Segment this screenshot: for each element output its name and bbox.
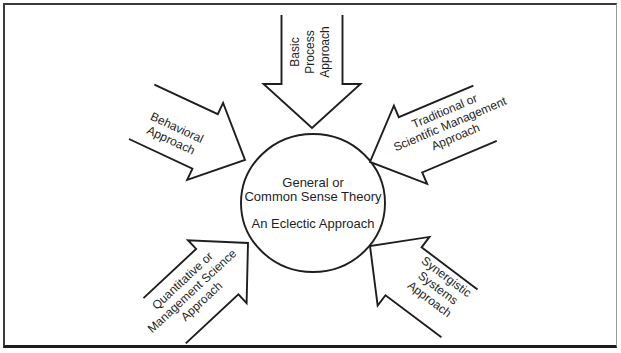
center-theory-title: General or Common Sense Theory (244, 176, 381, 204)
label-line: Process (303, 26, 318, 77)
label-basic-process: Basic Process Approach (288, 26, 333, 77)
label-line: General or (244, 176, 381, 190)
label-line: Basic (288, 26, 303, 77)
label-line: Common Sense Theory (244, 190, 381, 204)
diagram-canvas: Basic Process Approach Behavioral Approa… (0, 0, 621, 353)
center-theory-subtitle: An Eclectic Approach (244, 217, 381, 231)
label-line: Approach (318, 26, 333, 77)
center-circle-text: General or Common Sense Theory An Eclect… (244, 176, 381, 231)
